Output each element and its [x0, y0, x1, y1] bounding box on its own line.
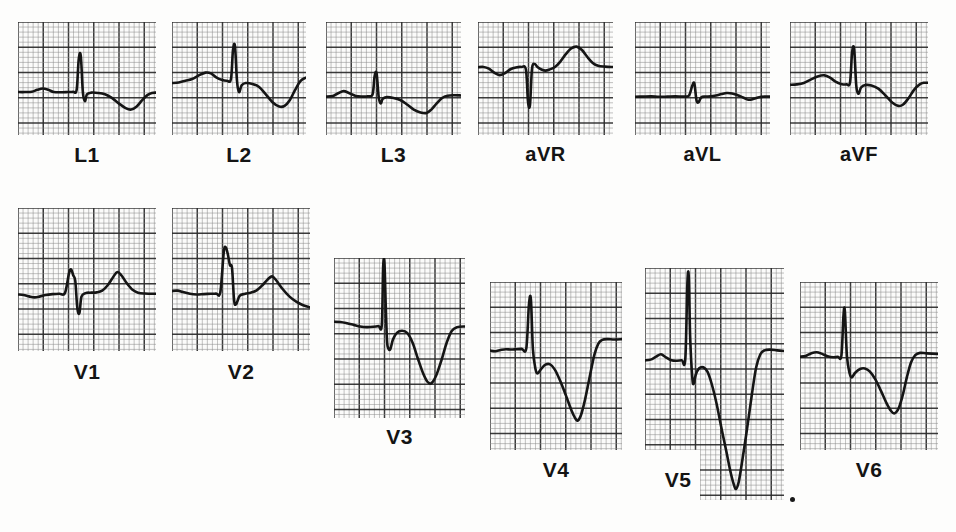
lead-label-v6: V6	[800, 458, 938, 482]
lead-label-v5: V5	[650, 468, 706, 492]
ecg-waveform	[800, 282, 938, 450]
lead-label-v3: V3	[334, 425, 465, 449]
lead-label-v1: V1	[18, 360, 156, 384]
ecg-panel-v6	[800, 282, 938, 450]
ecg-waveform	[18, 208, 156, 351]
ecg-waveform	[18, 22, 156, 135]
ecg-waveform	[635, 22, 770, 135]
ecg-waveform	[478, 22, 613, 135]
lead-label-l2: L2	[172, 143, 306, 167]
lead-label-avf: aVF	[790, 143, 928, 166]
ecg-panel-avf	[790, 22, 928, 135]
ecg-panel-v3	[334, 258, 465, 418]
ecg-waveform	[326, 22, 461, 135]
lead-label-avr: aVR	[478, 143, 613, 166]
lead-label-l1: L1	[18, 143, 156, 167]
ecg-panel-l2	[172, 22, 306, 135]
lead-label-v2: V2	[172, 360, 310, 384]
lead-label-l3: L3	[326, 143, 461, 167]
ecg-panel-avr	[478, 22, 613, 135]
ecg-panel-l3	[326, 22, 461, 135]
marker-dot	[790, 497, 795, 502]
ecg-waveform	[172, 22, 306, 135]
ecg-figure: L1L2L3aVRaVLaVFV1V2V3V4V5V6	[0, 0, 956, 532]
ecg-waveform	[790, 22, 928, 135]
ecg-panel-avl	[635, 22, 770, 135]
ecg-panel-v4	[490, 282, 622, 450]
ecg-panel-v2	[172, 208, 310, 351]
lead-label-avl: aVL	[635, 143, 770, 166]
lead-label-v4: V4	[490, 458, 622, 482]
ecg-waveform	[172, 208, 310, 351]
ecg-waveform	[490, 282, 622, 450]
ecg-waveform	[334, 258, 465, 418]
ecg-panel-l1	[18, 22, 156, 135]
ecg-panel-v1	[18, 208, 156, 351]
